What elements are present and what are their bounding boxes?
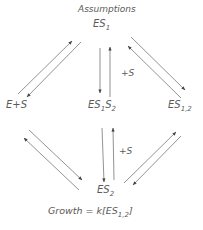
arrow-es1-to-es12 (131, 37, 185, 90)
arrow-es2-to-es1s2 (113, 128, 114, 180)
arrow-es2-to-e (24, 138, 79, 190)
arrow-es12-to-es1 (128, 46, 181, 98)
arrow-es1s2-to-es2 (102, 128, 104, 182)
reaction-arrows (0, 0, 203, 230)
arrow-e-to-es1 (18, 41, 72, 94)
arrow-es12-to-es2 (133, 136, 181, 185)
arrow-e-to-es2 (29, 130, 82, 180)
arrow-es2-to-es12 (124, 132, 176, 183)
arrow-es1-to-e (27, 42, 81, 97)
